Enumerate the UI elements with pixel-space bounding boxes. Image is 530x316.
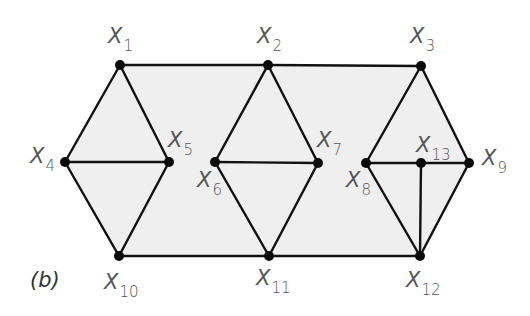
- node-x3: [416, 61, 426, 71]
- label-subscript: 2: [272, 37, 282, 55]
- label-base: X: [256, 266, 270, 290]
- node-x2: [263, 60, 273, 70]
- label-subscript: 9: [497, 159, 507, 177]
- label-base: X: [104, 270, 118, 294]
- node-label-x12: X12: [406, 270, 440, 291]
- label-subscript: 11: [271, 279, 290, 297]
- edge-x13-x12: [420, 163, 421, 256]
- node-label-x9: X9: [482, 148, 507, 169]
- node-x12: [415, 251, 425, 261]
- label-base: X: [346, 168, 360, 192]
- node-label-x2: X2: [257, 26, 282, 47]
- node-x5: [164, 157, 174, 167]
- node-label-x6: X6: [197, 170, 222, 191]
- label-subscript: 12: [421, 281, 440, 299]
- label-base: X: [410, 24, 424, 48]
- node-x11: [264, 251, 274, 261]
- node-x13: [416, 158, 426, 168]
- node-label-x5: X5: [168, 130, 193, 151]
- label-subscript: 13: [431, 146, 450, 164]
- node-x6: [210, 157, 220, 167]
- label-subscript: 7: [332, 141, 342, 159]
- node-x9: [464, 158, 474, 168]
- label-base: X: [197, 168, 211, 192]
- label-subscript: 8: [361, 181, 371, 199]
- edge-x2-x3: [268, 65, 421, 66]
- label-subscript: 5: [183, 141, 193, 159]
- node-label-x7: X7: [317, 130, 342, 151]
- label-subscript: 3: [425, 37, 435, 55]
- label-base: X: [416, 133, 430, 157]
- node-x4: [60, 157, 70, 167]
- label-base: X: [30, 144, 44, 168]
- shaded-face-region: [65, 65, 469, 256]
- label-subscript: 6: [212, 181, 222, 199]
- node-label-x1: X1: [108, 26, 133, 47]
- node-label-x8: X8: [346, 170, 371, 191]
- label-base: X: [317, 128, 331, 152]
- edge-x6-x7: [215, 162, 318, 163]
- label-subscript: 10: [119, 283, 138, 301]
- label-base: X: [482, 146, 496, 170]
- node-x8: [361, 158, 371, 168]
- label-subscript: 1: [123, 37, 133, 55]
- label-subscript: 4: [45, 157, 55, 175]
- node-label-x10: X10: [104, 272, 138, 293]
- node-label-x3: X3: [410, 26, 435, 47]
- label-base: X: [108, 24, 122, 48]
- label-base: X: [257, 24, 271, 48]
- node-x1: [115, 60, 125, 70]
- node-x7: [313, 158, 323, 168]
- node-label-x13: X13: [416, 135, 450, 156]
- label-base: X: [406, 268, 420, 292]
- panel-label: (b): [30, 268, 60, 292]
- node-label-x11: X11: [256, 268, 290, 289]
- label-base: X: [168, 128, 182, 152]
- node-x10: [114, 251, 124, 261]
- node-label-x4: X4: [30, 146, 55, 167]
